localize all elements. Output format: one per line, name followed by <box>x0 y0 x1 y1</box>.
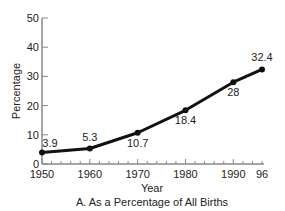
y-tick-label: 50 <box>27 12 39 24</box>
data-label: 32.4 <box>251 51 272 63</box>
x-tick-label: 96 <box>256 168 268 180</box>
x-tick-label: 1980 <box>173 168 197 180</box>
x-tick-label: 1990 <box>221 168 245 180</box>
chart-title: A. As a Percentage of All Births <box>76 196 229 208</box>
line-chart: 0102030405019501960197019801990963.95.31… <box>0 0 285 211</box>
data-label: 18.4 <box>175 114 196 126</box>
data-point <box>39 150 45 156</box>
data-label: 5.3 <box>82 131 97 143</box>
x-tick-label: 1970 <box>125 168 149 180</box>
data-point <box>182 107 188 113</box>
x-tick-label: 1960 <box>78 168 102 180</box>
x-tick-label: 1950 <box>30 168 54 180</box>
y-tick-label: 10 <box>27 129 39 141</box>
y-tick-label: 40 <box>27 41 39 53</box>
x-axis-label: Year <box>141 182 164 194</box>
data-point <box>259 66 265 72</box>
y-tick-label: 20 <box>27 100 39 112</box>
data-point <box>87 146 93 152</box>
data-label: 10.7 <box>127 137 148 149</box>
data-label: 28 <box>227 86 239 98</box>
y-axis-label: Percentage <box>10 63 22 119</box>
data-point <box>135 130 141 136</box>
data-point <box>230 79 236 85</box>
data-line <box>42 69 262 152</box>
y-tick-label: 30 <box>27 70 39 82</box>
data-label: 3.9 <box>42 137 57 149</box>
